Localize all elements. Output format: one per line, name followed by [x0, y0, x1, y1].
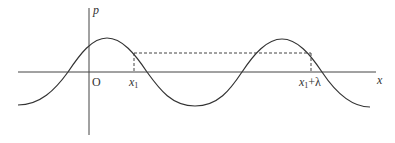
p-axis-label: p: [92, 3, 99, 17]
origin-label: O: [92, 75, 101, 89]
x1-subscript: 1: [134, 81, 138, 90]
plus-lambda: +λ: [308, 75, 321, 89]
wave-diagram: p x O x1 x1+λ: [0, 0, 395, 143]
x-axis-label: x: [376, 73, 383, 87]
x1-label: x1: [128, 75, 138, 90]
x1-plus-lambda-label: x1+λ: [298, 75, 321, 90]
